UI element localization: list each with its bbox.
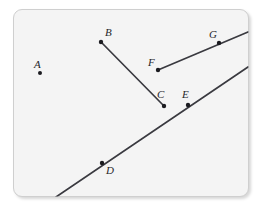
point-g-label: G	[209, 29, 217, 40]
point-a-label: A	[34, 59, 41, 70]
point-d-label: D	[106, 165, 114, 176]
geometry-figure-root: ABCDEFG	[0, 0, 261, 209]
point-b-label: B	[105, 27, 112, 38]
point-f-label: F	[148, 57, 155, 68]
point-e-label: E	[182, 89, 189, 100]
point-c-label: C	[157, 89, 164, 100]
